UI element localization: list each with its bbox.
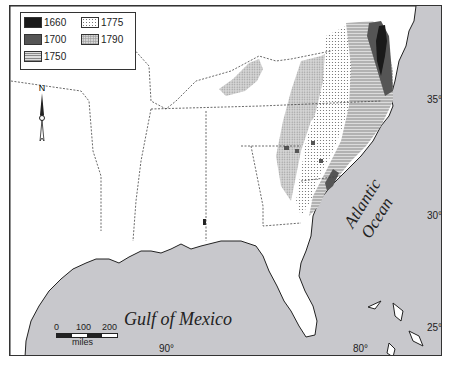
- legend-item-1700: 1700: [24, 34, 66, 45]
- north-arrow: N: [35, 83, 49, 143]
- legend-label: 1660: [44, 17, 66, 28]
- legend-item-1660: 1660: [24, 17, 66, 28]
- legend-item-1750: 1750: [24, 51, 66, 62]
- settlement-patch: [203, 219, 206, 225]
- legend-item-1775: 1775: [81, 17, 123, 28]
- settlement-patch: [311, 141, 315, 145]
- lon-90: 90°: [159, 343, 174, 354]
- lat-30: 30°: [427, 210, 442, 221]
- scale-unit: miles: [72, 337, 93, 347]
- lon-80: 80°: [353, 343, 368, 354]
- north-label: N: [35, 83, 49, 93]
- legend: 1660 1700 1750 1775 1790: [20, 12, 136, 70]
- gulf-label: Gulf of Mexico: [124, 309, 232, 330]
- swatch-1700: [24, 34, 42, 45]
- map-frame: 1660 1700 1750 1775 1790 N Gulf of Mexic…: [9, 5, 442, 356]
- settlement-patch: [319, 159, 323, 163]
- swatch-1660: [24, 17, 42, 28]
- settlement-patch: [295, 149, 299, 153]
- legend-label: 1700: [44, 34, 66, 45]
- legend-label: 1775: [101, 17, 123, 28]
- swatch-1750: [24, 51, 42, 62]
- lat-25: 25°: [427, 322, 442, 333]
- scale-tick-200: 200: [102, 322, 117, 332]
- legend-item-1790: 1790: [81, 34, 123, 45]
- legend-label: 1750: [44, 51, 66, 62]
- scale-tick-0: 0: [54, 322, 59, 332]
- scale-bar: 0 100 200 miles: [46, 322, 126, 346]
- legend-label: 1790: [101, 34, 123, 45]
- settlement-patch: [284, 146, 289, 150]
- swatch-1790: [81, 34, 99, 45]
- scale-tick-100: 100: [76, 322, 91, 332]
- lat-35: 35°: [427, 94, 442, 105]
- swatch-1775: [81, 17, 99, 28]
- north-arrow-icon: [35, 93, 49, 143]
